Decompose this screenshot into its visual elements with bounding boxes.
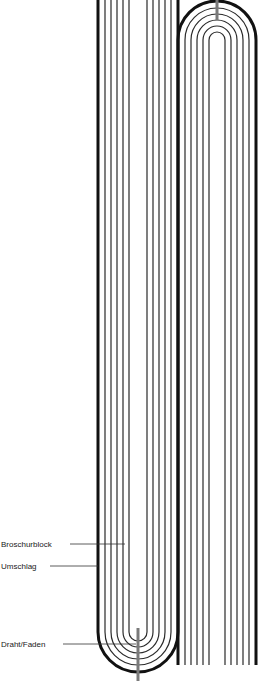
label-umschlag: Umschlag [1, 562, 37, 571]
binding-diagram: BroschurblockUmschlagDraht/Faden [0, 0, 267, 689]
right-signature [178, 0, 256, 665]
page-line [209, 32, 225, 665]
page-line [129, 0, 147, 641]
cover-line [178, 1, 256, 665]
page-line [111, 0, 165, 659]
label-draht-faden: Draht/Faden [1, 640, 45, 649]
page-line [203, 26, 231, 665]
page-line [191, 14, 243, 665]
page-line [105, 0, 171, 665]
cover-line [98, 0, 178, 672]
labels: BroschurblockUmschlagDraht/Faden [1, 540, 136, 649]
page-line [123, 0, 153, 647]
left-signature [98, 0, 178, 681]
page-line [185, 8, 249, 665]
signatures [98, 0, 256, 681]
label-broschurblock: Broschurblock [1, 540, 53, 549]
